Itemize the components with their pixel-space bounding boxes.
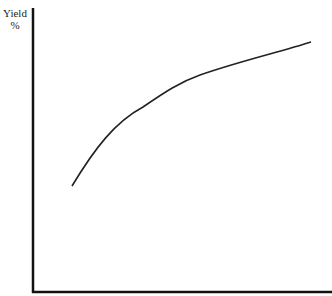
yield-curve [72,42,311,186]
chart-canvas [0,0,332,296]
